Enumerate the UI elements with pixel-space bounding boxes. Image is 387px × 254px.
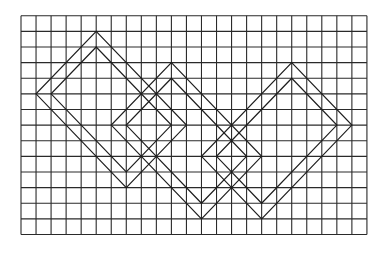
grid-lines	[21, 16, 367, 235]
grid-diamond-figure	[0, 0, 387, 254]
